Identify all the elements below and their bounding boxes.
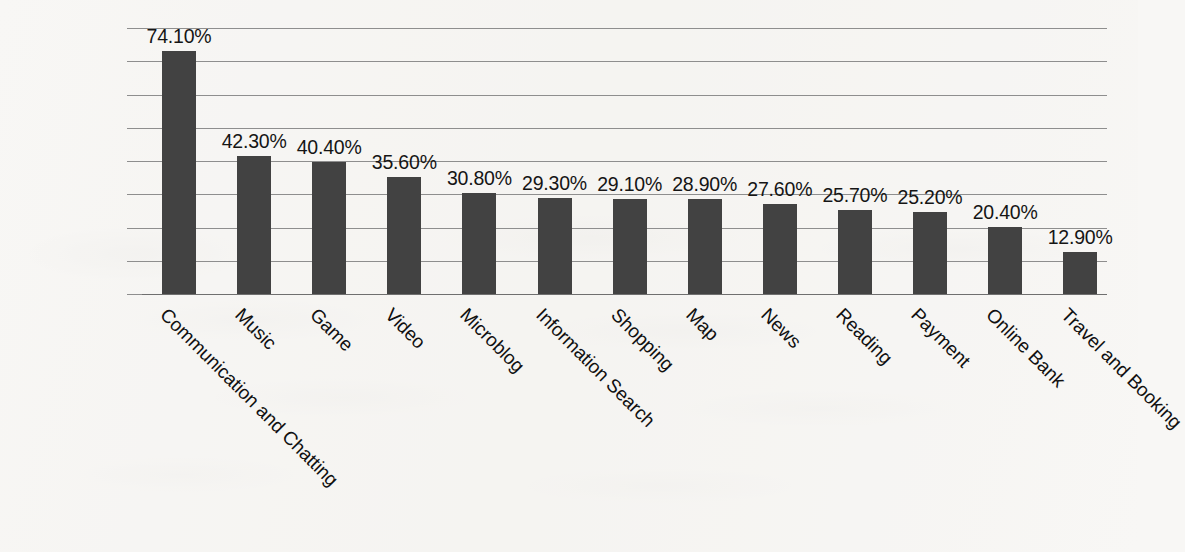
bar-group[interactable]: 20.40% xyxy=(988,28,1022,294)
category-label: Video xyxy=(381,304,430,353)
bar-value-label: 30.80% xyxy=(447,167,512,190)
bar[interactable] xyxy=(1063,252,1097,294)
bar[interactable] xyxy=(162,51,196,294)
bar-group[interactable]: 29.30% xyxy=(538,28,572,294)
bar-group[interactable]: 35.60% xyxy=(387,28,421,294)
bar-value-label: 42.30% xyxy=(222,130,287,153)
y-axis-tick xyxy=(127,28,142,29)
category-label: Microblog xyxy=(456,304,529,377)
bar[interactable] xyxy=(838,210,872,294)
category-label: Payment xyxy=(906,304,974,372)
y-axis-tick xyxy=(127,194,142,195)
bar-group[interactable]: 27.60% xyxy=(763,28,797,294)
y-axis-tick xyxy=(127,261,142,262)
category-label: Shopping xyxy=(606,304,678,376)
bar[interactable] xyxy=(462,193,496,294)
bar[interactable] xyxy=(387,177,421,294)
bar[interactable] xyxy=(538,198,572,294)
bar[interactable] xyxy=(237,156,271,294)
y-axis-tick xyxy=(127,128,142,129)
bar-group[interactable]: 25.70% xyxy=(838,28,872,294)
bar-group[interactable]: 42.30% xyxy=(237,28,271,294)
bar-value-label: 25.20% xyxy=(898,186,963,209)
category-label: News xyxy=(756,304,805,353)
bar[interactable] xyxy=(988,227,1022,294)
y-axis-tick xyxy=(127,294,142,295)
bar-value-label: 12.90% xyxy=(1048,226,1113,249)
y-axis-tick xyxy=(127,61,142,62)
bar-value-label: 20.40% xyxy=(973,201,1038,224)
bar-value-label: 35.60% xyxy=(372,151,437,174)
y-axis-tick xyxy=(127,228,142,229)
bar-group[interactable]: 30.80% xyxy=(462,28,496,294)
category-label: Map xyxy=(681,304,722,345)
category-axis-labels: Communication and ChattingMusicGameVideo… xyxy=(142,300,1107,540)
bar-value-label: 74.10% xyxy=(147,25,212,48)
bar-group[interactable]: 74.10% xyxy=(162,28,196,294)
bar-value-label: 29.10% xyxy=(597,173,662,196)
y-axis-tick xyxy=(127,161,142,162)
y-axis-tick xyxy=(127,95,142,96)
bar-group[interactable]: 40.40% xyxy=(312,28,346,294)
bar-group[interactable]: 25.20% xyxy=(913,28,947,294)
bar-value-label: 29.30% xyxy=(522,172,587,195)
bar[interactable] xyxy=(913,212,947,295)
bar[interactable] xyxy=(312,162,346,294)
bar[interactable] xyxy=(613,199,647,294)
category-label: Game xyxy=(306,304,358,356)
bar-group[interactable]: 28.90% xyxy=(688,28,722,294)
category-label: Travel and Booking xyxy=(1057,304,1185,434)
bar-value-label: 27.60% xyxy=(747,178,812,201)
bar-group[interactable]: 12.90% xyxy=(1063,28,1097,294)
category-label: Music xyxy=(231,304,281,354)
category-label: Reading xyxy=(831,304,896,369)
bars-layer: 74.10%42.30%40.40%35.60%30.80%29.30%29.1… xyxy=(142,28,1107,294)
bar[interactable] xyxy=(763,204,797,294)
bar[interactable] xyxy=(688,199,722,294)
bar-value-label: 40.40% xyxy=(297,136,362,159)
bar-value-label: 28.90% xyxy=(672,173,737,196)
bar-group[interactable]: 29.10% xyxy=(613,28,647,294)
axis-baseline xyxy=(142,294,1107,295)
plot-area: 74.10%42.30%40.40%35.60%30.80%29.30%29.1… xyxy=(142,28,1107,294)
category-label: Online Bank xyxy=(982,304,1070,392)
bar-value-label: 25.70% xyxy=(822,184,887,207)
